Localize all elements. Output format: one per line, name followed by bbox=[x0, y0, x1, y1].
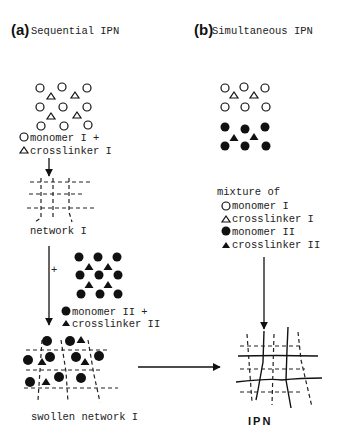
mixture-legend-crosslinker-ii: crosslinker II bbox=[222, 239, 320, 251]
svg-text:monomer II: monomer II bbox=[232, 226, 295, 238]
mixture-heading: mixture of bbox=[217, 186, 280, 198]
legend-crosslinker-ii: crosslinker II bbox=[62, 318, 160, 330]
panel-a-title: Sequential IPN bbox=[31, 25, 119, 37]
ipn-label: IPN bbox=[248, 415, 272, 427]
svg-text:monomer I: monomer I bbox=[232, 200, 289, 212]
open-triangle-icon bbox=[20, 147, 28, 153]
svg-text:crosslinker I: crosslinker I bbox=[30, 145, 112, 157]
svg-text:monomer II +: monomer II + bbox=[72, 306, 148, 318]
panel-b-header: (b) Simultaneous IPN bbox=[194, 21, 313, 38]
mixture-legend-crosslinker-i: crosslinker I bbox=[222, 213, 314, 225]
ipn-diagram: (a) Sequential IPN (b) Simultaneous IPN … bbox=[0, 0, 342, 443]
network-i-sketch bbox=[27, 178, 96, 222]
swollen-network-i-sketch bbox=[23, 336, 118, 402]
mixture-legend-monomer-i: monomer I bbox=[222, 200, 289, 212]
filled-circle-icon bbox=[62, 307, 71, 316]
monomer-i-cluster bbox=[36, 83, 92, 130]
panel-a-letter: (a) bbox=[11, 21, 29, 38]
open-triangle-icon bbox=[222, 216, 230, 222]
legend-crosslinker-i: crosslinker I bbox=[20, 145, 112, 157]
panel-b-title: Simultaneous IPN bbox=[212, 25, 313, 37]
open-circle-icon bbox=[20, 133, 28, 141]
svg-text:crosslinker II: crosslinker II bbox=[72, 318, 160, 330]
svg-text:monomer I +: monomer I + bbox=[30, 132, 99, 144]
svg-text:crosslinker II: crosslinker II bbox=[232, 239, 320, 251]
monomer-ii-cluster bbox=[75, 253, 123, 299]
filled-triangle-icon bbox=[62, 320, 70, 326]
swollen-network-label: swollen network I bbox=[31, 411, 138, 423]
legend-monomer-i: monomer I + bbox=[20, 132, 99, 144]
plus-sign: + bbox=[51, 264, 57, 276]
legend-monomer-ii: monomer II + bbox=[62, 306, 148, 318]
filled-circle-icon bbox=[222, 227, 231, 236]
panel-a-header: (a) Sequential IPN bbox=[11, 21, 119, 38]
open-circle-icon bbox=[222, 202, 230, 210]
mixture-legend-monomer-ii: monomer II bbox=[222, 226, 296, 238]
ipn-sketch bbox=[236, 327, 322, 408]
svg-text:crosslinker I: crosslinker I bbox=[232, 213, 314, 225]
network-i-label: network I bbox=[30, 225, 87, 237]
panel-b-letter: (b) bbox=[194, 21, 213, 38]
filled-triangle-icon bbox=[222, 242, 230, 248]
mixture-cluster bbox=[221, 83, 271, 151]
